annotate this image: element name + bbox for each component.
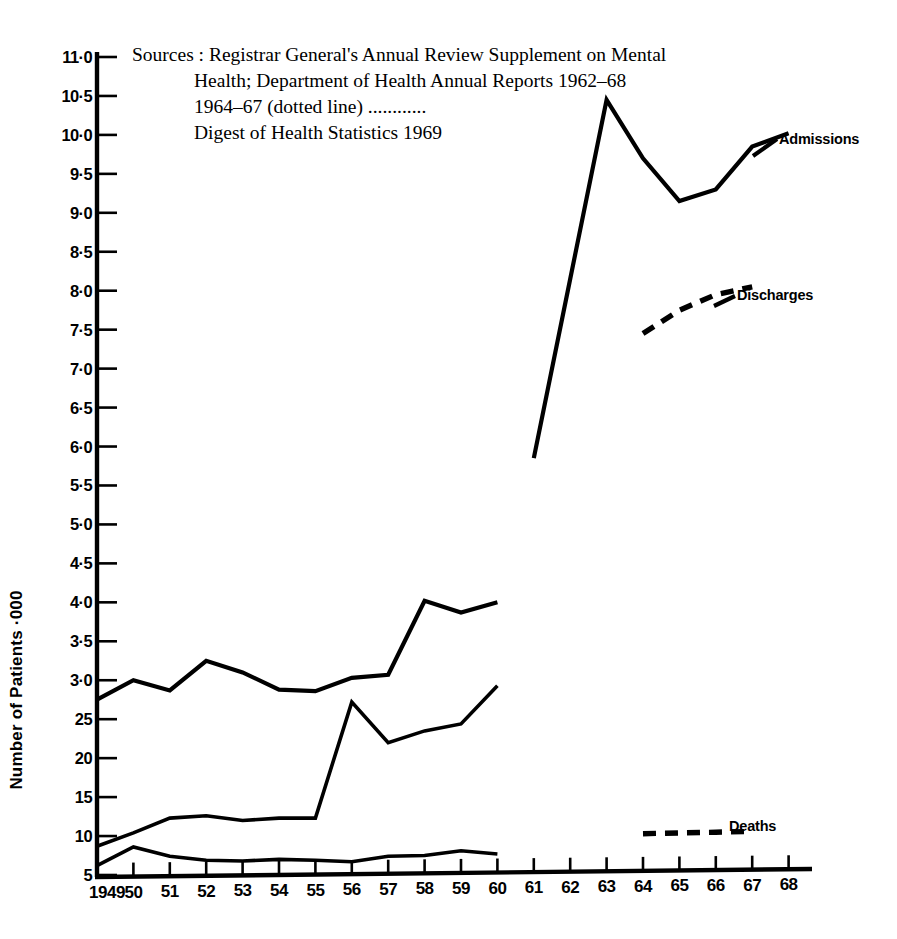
y-axis-tick-label: 15 — [75, 788, 93, 806]
x-axis-tick-label: 55 — [306, 881, 324, 900]
y-axis-tick-label: 20 — [75, 749, 93, 767]
x-axis-tick-label: 1949 — [89, 883, 125, 902]
series-line-admissions — [534, 100, 789, 458]
series-label-admissions: Admissions — [779, 131, 859, 147]
x-axis-tick-label: 63 — [598, 877, 616, 896]
x-axis-tick-label: 56 — [343, 880, 361, 899]
x-axis-tick-label: 60 — [488, 879, 506, 898]
series-layer — [97, 100, 789, 866]
y-axis-tick-label: 6·0 — [70, 438, 92, 456]
series-label-deaths: Deaths — [729, 818, 776, 834]
y-axis-tick-label: 9·5 — [70, 165, 92, 183]
y-axis-ticks — [97, 57, 117, 875]
x-axis-tick-label: 65 — [670, 876, 688, 895]
y-axis-tick-label: 3·0 — [70, 671, 92, 689]
y-axis-tick-label: 25 — [75, 710, 93, 728]
y-axis-tick-label: 4·5 — [70, 554, 92, 572]
x-axis-tick-label: 61 — [525, 878, 543, 897]
y-axis-tick-label: 10·5 — [61, 87, 92, 105]
y-axis-tick-label: 10·0 — [61, 126, 92, 144]
x-axis-tick-label: 53 — [234, 881, 252, 900]
chart-plot-area: Number of Patients ·000 5101520253·03·54… — [0, 0, 897, 939]
x-axis-tick-label: 59 — [452, 879, 470, 898]
y-axis-tick-label: 6·5 — [70, 399, 92, 417]
series-line-series-a-upper-early — [97, 601, 497, 700]
y-axis-tick-label: 8·5 — [70, 243, 92, 261]
series-line-discharges — [643, 287, 752, 334]
y-axis-tick-labels: 5101520253·03·54·04·55·05·56·06·57·07·58… — [61, 48, 92, 884]
y-axis-tick-label: 7·5 — [70, 321, 92, 339]
chart-canvas: Sources : Registrar General's Annual Rev… — [0, 0, 897, 939]
y-axis-tick-label: 8·0 — [70, 282, 92, 300]
series-line-series-c-lower-early — [97, 847, 497, 866]
x-axis-tick-label: 50 — [124, 883, 142, 902]
y-axis-tick-label: 5 — [83, 866, 92, 884]
x-axis-line — [95, 869, 812, 877]
y-axis-tick-label: 7·0 — [70, 360, 92, 378]
x-axis-tick-label: 58 — [416, 879, 434, 898]
x-axis-tick-label: 51 — [161, 882, 179, 901]
x-axis-tick-label: 62 — [561, 878, 579, 897]
series-label-discharges: Discharges — [737, 287, 813, 303]
y-axis-tick-label: 5·5 — [70, 476, 92, 494]
series-line-series-b-middle-early — [97, 686, 497, 847]
x-axis-tick-label: 67 — [743, 876, 761, 895]
x-axis-tick-label: 54 — [270, 881, 289, 900]
y-axis-tick-label: 9·0 — [70, 204, 92, 222]
x-axis-tick-label: 57 — [379, 880, 397, 899]
x-axis-tick-labels: 1949505152535455565758596061626364656667… — [89, 875, 798, 902]
x-axis-tick-label: 52 — [197, 882, 215, 901]
y-axis-tick-label: 11·0 — [62, 48, 92, 66]
y-axis-tick-label: 4·0 — [70, 593, 92, 611]
y-axis-tick-label: 5·0 — [70, 515, 92, 533]
y-axis-tick-label: 3·5 — [70, 632, 92, 650]
x-axis-tick-label: 64 — [634, 877, 653, 896]
y-axis-tick-label: 10 — [75, 827, 93, 845]
y-axis-title: Number of Patients ·000 — [7, 590, 26, 789]
leader-discharges — [714, 296, 735, 306]
x-axis-tick-label: 66 — [707, 876, 725, 895]
x-axis-tick-label: 68 — [780, 875, 798, 894]
